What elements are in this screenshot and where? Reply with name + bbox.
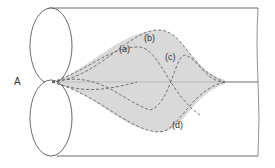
curve-label-d: (d)	[172, 120, 183, 130]
shaded-envelope	[52, 30, 225, 132]
lower-circle	[30, 80, 72, 156]
upper-circle	[30, 8, 72, 84]
curve-label-c: (c)	[165, 52, 176, 62]
diagram-canvas	[0, 0, 275, 168]
curve-label-b: (b)	[144, 33, 155, 43]
point-label-a: A	[14, 76, 21, 87]
curve-label-a: (a)	[119, 44, 130, 54]
